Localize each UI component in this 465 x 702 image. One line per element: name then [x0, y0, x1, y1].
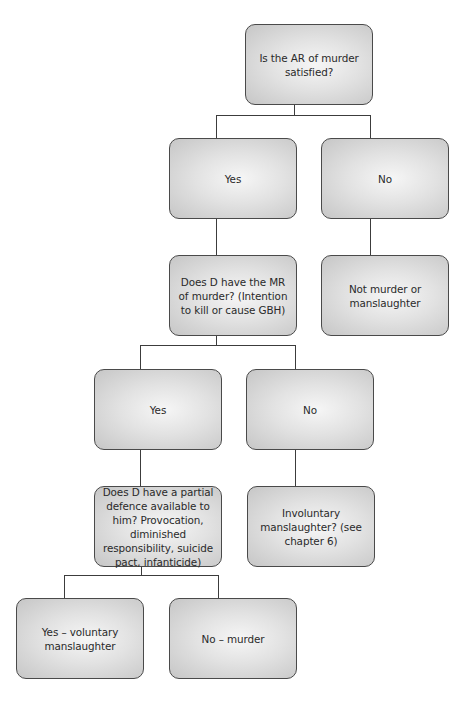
- node-mr-yes: Yes: [94, 369, 222, 450]
- connector: [64, 575, 219, 576]
- node-ar-question: Is the AR of murder satisfied?: [245, 24, 373, 105]
- node-mr-question: Does D have the MR of murder? (Intention…: [169, 255, 297, 336]
- node-label: Does D have a partial defence available …: [100, 485, 216, 569]
- node-label: Not murder or manslaughter: [327, 282, 443, 310]
- node-label: No – murder: [202, 632, 265, 646]
- connector: [216, 115, 371, 116]
- node-not-murder: Not murder or manslaughter: [321, 255, 449, 336]
- node-label: No: [378, 172, 392, 186]
- node-label: Yes – voluntary manslaughter: [22, 625, 138, 653]
- connector: [370, 115, 371, 138]
- connector: [140, 449, 141, 486]
- node-label: No: [303, 403, 317, 417]
- node-mr-no: No: [246, 369, 374, 450]
- connector: [218, 575, 219, 598]
- connector: [295, 345, 296, 369]
- node-label: Is the AR of murder satisfied?: [251, 51, 367, 79]
- node-involuntary: Involuntary manslaughter? (see chapter 6…: [247, 486, 375, 567]
- connector: [140, 345, 296, 346]
- connector: [64, 575, 65, 598]
- node-ar-no: No: [321, 138, 449, 219]
- node-murder: No – murder: [169, 598, 297, 679]
- connector: [140, 345, 141, 369]
- node-ar-yes: Yes: [169, 138, 297, 219]
- flowchart: Is the AR of murder satisfied? Yes No Do…: [0, 0, 465, 702]
- connector: [216, 115, 217, 138]
- connector: [370, 219, 371, 255]
- node-defence-question: Does D have a partial defence available …: [94, 486, 222, 567]
- node-label: Involuntary manslaughter? (see chapter 6…: [253, 506, 369, 548]
- node-label: Yes: [225, 172, 241, 186]
- node-label: Does D have the MR of murder? (Intention…: [175, 275, 291, 317]
- connector: [295, 449, 296, 486]
- connector: [216, 219, 217, 255]
- node-voluntary-manslaughter: Yes – voluntary manslaughter: [16, 598, 144, 679]
- node-label: Yes: [150, 403, 166, 417]
